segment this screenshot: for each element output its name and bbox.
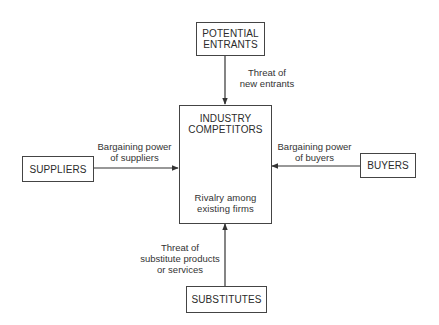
node-suppliers: SUPPLIERS: [22, 156, 94, 182]
node-buyers-label: BUYERS: [367, 160, 409, 171]
node-substitutes: SUBSTITUTES: [186, 286, 267, 313]
edge-label-substitutes: Threat of substitute products or service…: [134, 242, 226, 275]
node-industry-competitors: INDUSTRY COMPETITORS Rivalry among exist…: [179, 105, 272, 224]
node-industry-competitors-line1: INDUSTRY: [180, 113, 271, 124]
edge-label-buyers: Bargaining power of buyers: [272, 141, 357, 163]
node-industry-competitors-line2: COMPETITORS: [180, 124, 271, 135]
edge-label-substitutes-line1: Threat of: [134, 242, 226, 253]
edge-label-suppliers-line1: Bargaining power: [92, 141, 177, 152]
edge-label-suppliers: Bargaining power of suppliers: [92, 141, 177, 163]
node-substitutes-label: SUBSTITUTES: [192, 294, 262, 305]
edge-label-substitutes-line2: substitute products: [134, 253, 226, 264]
node-potential-entrants: POTENTIAL ENTRANTS: [196, 22, 265, 56]
edge-label-buyers-line2: of buyers: [272, 152, 357, 163]
edge-label-buyers-line1: Bargaining power: [272, 141, 357, 152]
node-potential-entrants-line2: ENTRANTS: [203, 39, 258, 50]
node-buyers: BUYERS: [360, 153, 416, 178]
node-industry-competitors-sub1: Rivalry among: [180, 192, 271, 203]
edge-label-substitutes-line3: or services: [134, 264, 226, 275]
node-industry-competitors-sub2: existing firms: [180, 203, 271, 214]
node-suppliers-label: SUPPLIERS: [29, 164, 86, 175]
edge-label-new-entrants-line1: Threat of: [232, 67, 302, 78]
edge-label-suppliers-line2: of suppliers: [92, 152, 177, 163]
node-potential-entrants-line1: POTENTIAL: [202, 28, 258, 39]
edge-label-new-entrants: Threat of new entrants: [232, 67, 302, 89]
edge-label-new-entrants-line2: new entrants: [232, 78, 302, 89]
